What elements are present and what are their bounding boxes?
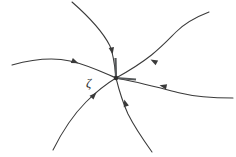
phase-portrait-canvas: ζ	[0, 0, 236, 157]
equilibrium-point-marker	[114, 76, 119, 81]
stub-up	[116, 58, 117, 78]
stub-right	[116, 78, 136, 80]
equilibrium-point-label: ζ	[86, 75, 92, 90]
phase-portrait-figure: ζ	[0, 0, 236, 157]
